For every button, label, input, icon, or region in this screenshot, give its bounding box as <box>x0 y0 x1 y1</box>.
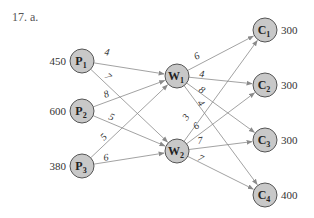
demand-value: 400 <box>281 189 298 201</box>
supply-value: 600 <box>50 105 67 117</box>
demand-value: 300 <box>281 79 298 91</box>
node-c1: C1300 <box>253 18 298 42</box>
edge-cost-label: 4 <box>195 98 207 109</box>
edge-p1-w1 <box>94 63 164 74</box>
edge-w1-c4 <box>184 86 257 185</box>
node-w1: W1 <box>165 64 189 88</box>
supply-value: 450 <box>50 55 67 67</box>
edge-cost-label: 5 <box>107 111 116 123</box>
node-p2: P2600 <box>50 99 95 123</box>
transshipment-network-diagram: 47855664843677 P1450P2600P3380W1W2C1300C… <box>0 0 314 218</box>
edge-cost-label: 7 <box>103 70 115 82</box>
node-c2: C2300 <box>253 73 298 97</box>
edge-cost-label: 8 <box>197 84 208 96</box>
edge-cost-labels: 47855664843677 <box>98 46 208 164</box>
edge-cost-label: 6 <box>192 50 202 62</box>
edge-cost-label: 4 <box>199 68 205 79</box>
node-p3: P3380 <box>50 154 95 178</box>
nodes-group: P1450P2600P3380W1W2C1300C2300C3300C4400 <box>50 18 299 207</box>
edge-p3-w1 <box>91 85 168 158</box>
node-p1: P1450 <box>50 49 95 73</box>
node-w2: W2 <box>165 139 189 163</box>
edge-cost-label: 4 <box>104 46 111 58</box>
node-c4: C4400 <box>253 183 298 207</box>
edge-cost-label: 5 <box>98 131 109 142</box>
edge-cost-label: 7 <box>196 152 206 165</box>
node-c3: C3300 <box>253 128 298 152</box>
edge-cost-label: 8 <box>102 88 110 100</box>
edge-cost-label: 3 <box>179 112 191 123</box>
demand-value: 300 <box>281 134 298 146</box>
edge-cost-label: 7 <box>197 134 204 146</box>
supply-value: 380 <box>50 160 67 172</box>
edge-cost-label: 6 <box>103 151 110 163</box>
demand-value: 300 <box>281 24 298 36</box>
